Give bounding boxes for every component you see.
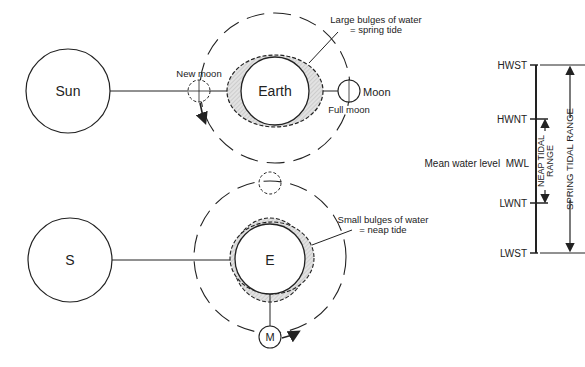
earth-label: Earth: [258, 83, 291, 99]
neap-callout-leader: [312, 230, 352, 245]
quarter-moon-circle: [259, 172, 281, 194]
neap-moon-label: M: [265, 331, 274, 343]
tides-diagram: Sun Earth New moon Moon Full moon Large …: [0, 0, 585, 367]
lwnt-label: LWNT: [499, 198, 527, 209]
new-moon-label: New moon: [176, 68, 221, 79]
moon-label: Moon: [363, 86, 391, 98]
spring-tide-diagram: Sun Earth New moon Moon Full moon Large …: [26, 13, 422, 163]
neap-sun-label: S: [65, 252, 74, 268]
neap-range-label-line2: RANGE: [545, 145, 555, 177]
neap-earth-label: E: [265, 252, 274, 268]
full-moon-label: Full moon: [328, 104, 370, 115]
lwst-label: LWST: [500, 248, 527, 259]
spring-range-label: SPRING TIDAL RANGE: [564, 108, 575, 210]
mwl-label: Mean water level MWL: [425, 158, 530, 169]
tidal-levels-scale: HWST HWNT Mean water level MWL LWNT LWST…: [425, 60, 585, 259]
neap-callout-line2: = neap tide: [359, 224, 406, 235]
neap-orbit-direction-arrow: [282, 332, 298, 338]
hwnt-label: HWNT: [497, 114, 527, 125]
neap-tide-diagram: S E M Small bulges of water = neap tide: [28, 181, 428, 348]
spring-callout-leader: [309, 32, 338, 63]
spring-callout-line2: = spring tide: [350, 24, 402, 35]
hwst-label: HWST: [498, 60, 527, 71]
sun-label: Sun: [56, 83, 81, 99]
